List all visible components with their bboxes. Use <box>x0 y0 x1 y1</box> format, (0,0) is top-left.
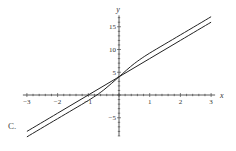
x-tick-label: 3 <box>209 98 213 106</box>
y-tick-label: 15 <box>109 23 117 31</box>
y-tick-label: 10 <box>109 46 117 54</box>
y-axis-label: y <box>115 5 120 14</box>
chart-canvas: −3−2−1123−551015xy <box>0 0 236 151</box>
x-axis-label: x <box>219 91 224 100</box>
x-tick-label: −2 <box>54 98 62 106</box>
x-tick-label: 1 <box>148 98 152 106</box>
x-tick-label: −3 <box>23 98 31 106</box>
y-tick-label: 5 <box>113 69 117 77</box>
x-tick-label: −1 <box>85 98 93 106</box>
x-tick-label: 2 <box>179 98 183 106</box>
option-label: C. <box>8 121 16 131</box>
axes <box>23 15 215 136</box>
tick-labels: −3−2−1123−551015xy <box>23 5 224 122</box>
y-tick-label: −5 <box>109 114 117 122</box>
